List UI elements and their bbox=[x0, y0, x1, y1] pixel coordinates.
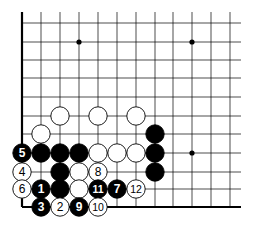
white-stone bbox=[89, 144, 107, 162]
black-stone: 7 bbox=[108, 180, 126, 198]
move-number-label: 9 bbox=[76, 200, 83, 214]
white-stone bbox=[89, 107, 107, 125]
white-stone bbox=[108, 144, 126, 162]
move-number-label: 7 bbox=[114, 182, 121, 196]
white-stone bbox=[127, 144, 145, 162]
black-stone bbox=[32, 144, 50, 162]
black-stone bbox=[51, 163, 69, 181]
black-stone: 9 bbox=[70, 198, 88, 216]
black-stone bbox=[146, 144, 164, 162]
white-stone bbox=[127, 107, 145, 125]
stones: 548611171232910 bbox=[13, 107, 164, 216]
move-number-label: 5 bbox=[19, 146, 26, 160]
move-number-label: 12 bbox=[130, 183, 142, 195]
star-point-icon bbox=[189, 150, 194, 155]
move-number-label: 8 bbox=[95, 165, 102, 179]
star-point-icon bbox=[76, 39, 81, 44]
white-stone: 2 bbox=[51, 198, 69, 216]
white-stone: 12 bbox=[127, 180, 145, 198]
white-stone: 4 bbox=[13, 163, 31, 181]
move-number-label: 1 bbox=[38, 182, 45, 196]
black-stone bbox=[70, 144, 88, 162]
white-stone: 8 bbox=[89, 163, 107, 181]
move-number-label: 2 bbox=[57, 200, 64, 214]
white-stone: 6 bbox=[13, 180, 31, 198]
black-stone: 5 bbox=[13, 144, 31, 162]
white-stone bbox=[70, 180, 88, 198]
white-stone: 10 bbox=[89, 198, 107, 216]
move-number-label: 6 bbox=[19, 182, 26, 196]
move-number-label: 11 bbox=[92, 183, 103, 195]
move-number-label: 10 bbox=[92, 201, 104, 213]
star-points bbox=[76, 39, 194, 155]
black-stone: 11 bbox=[89, 180, 107, 198]
black-stone bbox=[51, 144, 69, 162]
star-point-icon bbox=[189, 39, 194, 44]
white-stone bbox=[51, 107, 69, 125]
move-number-label: 3 bbox=[38, 200, 45, 214]
black-stone: 3 bbox=[32, 198, 50, 216]
white-stone bbox=[32, 125, 50, 143]
black-stone bbox=[146, 125, 164, 143]
go-board: 548611171232910 bbox=[0, 0, 253, 228]
white-stone bbox=[70, 163, 88, 181]
move-number-label: 4 bbox=[19, 165, 26, 179]
black-stone bbox=[146, 163, 164, 181]
black-stone bbox=[51, 180, 69, 198]
black-stone: 1 bbox=[32, 180, 50, 198]
